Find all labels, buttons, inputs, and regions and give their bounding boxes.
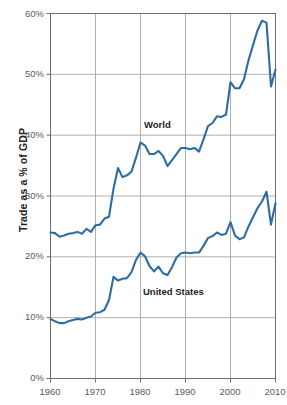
series-line-united-states (51, 192, 276, 323)
series-lines (51, 21, 276, 323)
plot-area (0, 0, 287, 405)
chart-container: Trade as a % of GDP 60% 50% 40% 30% 20% … (0, 0, 287, 405)
axis-ticks (47, 14, 276, 383)
gridlines (51, 14, 276, 379)
series-line-world (51, 21, 276, 237)
